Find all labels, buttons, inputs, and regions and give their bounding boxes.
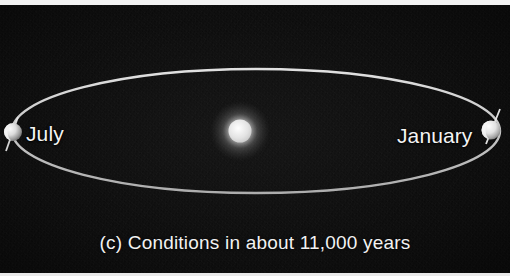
sun-core (229, 120, 252, 143)
figure-caption: (c) Conditions in about 11,000 years (0, 233, 510, 254)
night-sky-background: July January (c) Conditions in about 11,… (0, 5, 510, 273)
label-july: July (26, 123, 64, 144)
orbit-figure: July January (c) Conditions in about 11,… (0, 0, 510, 276)
label-january: January (397, 125, 472, 146)
